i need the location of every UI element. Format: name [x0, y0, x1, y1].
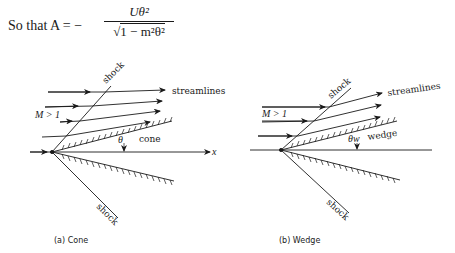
wedge-label: wedge — [367, 128, 398, 142]
figures: shock shock streamlines M > 1 θ cone x (… — [0, 0, 455, 253]
streamlines-label: streamlines — [172, 86, 226, 96]
theta-w-label: θw — [348, 133, 360, 144]
cone-lower-surface — [52, 152, 174, 181]
streamline-4 — [42, 122, 150, 137]
theta-label: θ — [118, 134, 123, 145]
cone-label: cone — [139, 134, 161, 144]
streamline-1 — [262, 93, 382, 107]
shock-top-label: shock — [100, 59, 126, 85]
streamlines-label: streamlines — [387, 81, 442, 98]
shock-bottom-label: shock — [325, 197, 352, 222]
shock-bottom-label: shock — [95, 201, 121, 227]
figure-cone — [30, 86, 210, 218]
wedge-lower-surface — [281, 150, 400, 180]
mach-label: M > 1 — [34, 109, 60, 120]
shock-top-line — [281, 88, 351, 150]
x-axis-label: x — [211, 146, 217, 157]
streamline-3 — [60, 111, 160, 122]
caption-wedge: (b) Wedge — [279, 236, 320, 245]
caption-cone: (a) Cone — [54, 236, 88, 245]
shock-top-label: shock — [326, 76, 353, 101]
figure-wedge — [250, 88, 432, 213]
mach-label: M > 1 — [261, 108, 287, 119]
